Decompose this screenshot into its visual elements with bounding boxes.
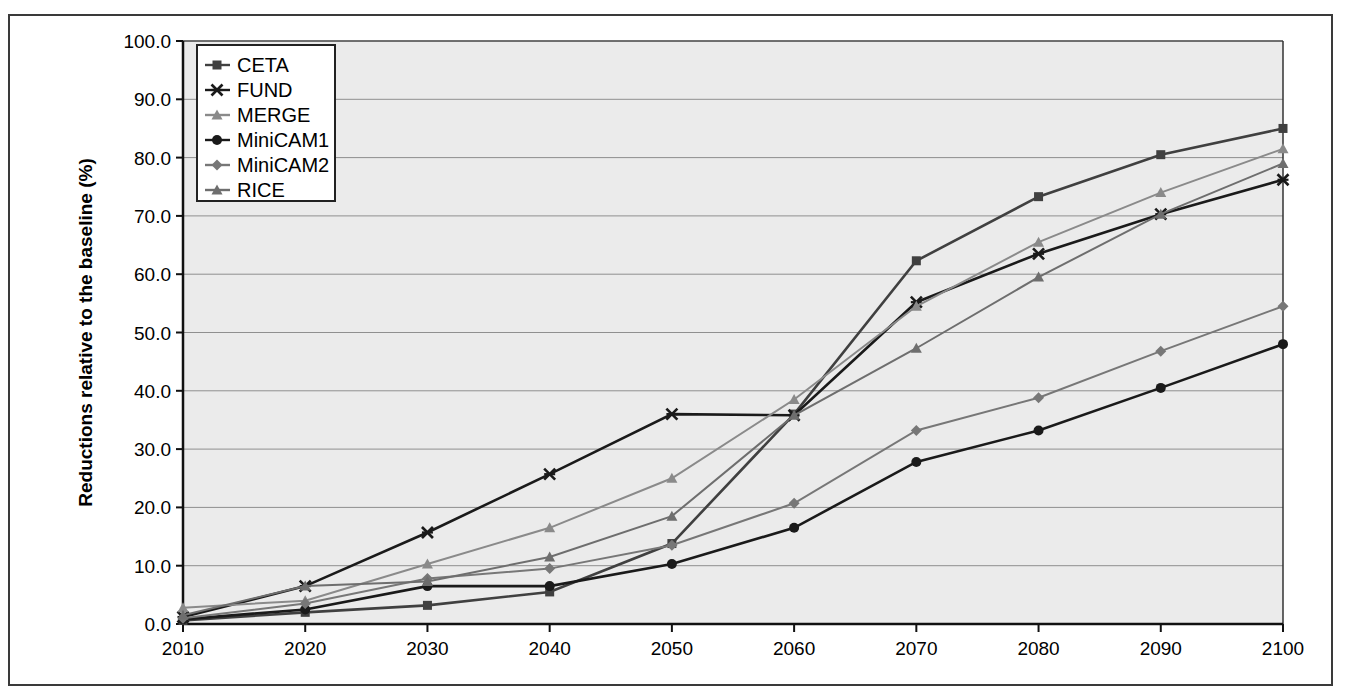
y-tick-label: 100.0 — [123, 31, 171, 52]
data-point — [912, 256, 921, 265]
legend-label: FUND — [237, 79, 293, 101]
y-tick-label: 20.0 — [134, 497, 171, 518]
x-tick-label: 2070 — [895, 638, 937, 659]
data-point — [667, 559, 677, 569]
data-point — [1034, 192, 1043, 201]
x-tick-label: 2010 — [162, 638, 204, 659]
y-tick-label: 80.0 — [134, 148, 171, 169]
legend: CETAFUNDMERGEMiniCAM1MiniCAM2RICE — [197, 45, 335, 201]
y-tick-label: 30.0 — [134, 439, 171, 460]
x-tick-label: 2050 — [651, 638, 693, 659]
legend-label: MERGE — [237, 104, 310, 126]
data-point — [911, 457, 921, 467]
y-tick-label: 10.0 — [134, 556, 171, 577]
y-tick-label: 70.0 — [134, 206, 171, 227]
x-tick-label: 2060 — [773, 638, 815, 659]
legend-label: CETA — [237, 54, 290, 76]
legend-label: MiniCAM1 — [237, 129, 329, 151]
chart-svg: 0.010.020.030.040.050.060.070.080.090.01… — [0, 0, 1346, 697]
legend-marker-circle-icon — [212, 135, 222, 145]
data-point — [1278, 339, 1288, 349]
y-tick-label: 40.0 — [134, 381, 171, 402]
x-tick-label: 2080 — [1017, 638, 1059, 659]
y-tick-label: 90.0 — [134, 89, 171, 110]
x-tick-label: 2020 — [284, 638, 326, 659]
data-point — [1279, 124, 1288, 133]
legend-label: MiniCAM2 — [237, 154, 329, 176]
data-point — [545, 581, 555, 591]
y-tick-label: 60.0 — [134, 264, 171, 285]
data-point — [423, 601, 432, 610]
y-tick-label: 50.0 — [134, 323, 171, 344]
data-point — [1156, 383, 1166, 393]
data-point — [789, 523, 799, 533]
data-point — [1156, 150, 1165, 159]
x-tick-label: 2100 — [1262, 638, 1304, 659]
chart-page: 0.010.020.030.040.050.060.070.080.090.01… — [0, 0, 1346, 697]
data-point — [1034, 425, 1044, 435]
x-tick-label: 2090 — [1140, 638, 1182, 659]
y-axis-title: Reductions relative to the baseline (%) — [75, 158, 96, 506]
legend-marker-square-icon — [213, 61, 222, 70]
y-tick-label: 0.0 — [145, 614, 171, 635]
x-tick-label: 2030 — [406, 638, 448, 659]
line-chart: 0.010.020.030.040.050.060.070.080.090.01… — [0, 0, 1346, 697]
x-tick-label: 2040 — [529, 638, 571, 659]
legend-label: RICE — [237, 179, 285, 201]
